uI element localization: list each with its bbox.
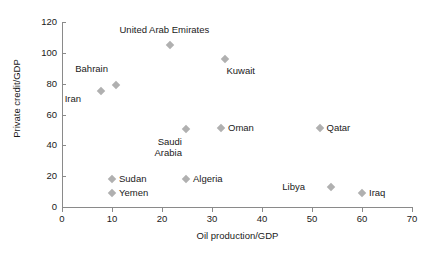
y-tick-label: 80 [33, 79, 57, 89]
data-point-label: United Arab Emirates [120, 24, 166, 35]
data-point-marker[interactable] [165, 41, 173, 49]
y-tick-mark [62, 145, 66, 146]
y-tick-label: 20 [33, 171, 57, 181]
data-point-label: Bahrain [62, 63, 108, 74]
x-tick-label: 20 [150, 214, 174, 224]
data-point-label: Saudi Arabia [136, 136, 182, 158]
data-point-marker[interactable] [108, 189, 116, 197]
x-tick-mark [162, 208, 163, 212]
x-axis-line [62, 207, 413, 208]
x-tick-mark [312, 208, 313, 212]
data-point-marker[interactable] [182, 175, 190, 183]
x-tick-mark [112, 208, 113, 212]
x-tick-mark [412, 208, 413, 212]
data-point-marker[interactable] [97, 87, 105, 95]
data-point-marker[interactable] [220, 55, 228, 63]
data-point-label: Algeria [193, 173, 223, 184]
x-tick-label: 10 [100, 214, 124, 224]
x-tick-mark [62, 208, 63, 212]
y-tick-label: 60 [33, 110, 57, 120]
x-tick-label: 40 [250, 214, 274, 224]
data-point-marker[interactable] [217, 123, 225, 131]
y-tick-mark [62, 115, 66, 116]
y-tick-label: 100 [33, 48, 57, 58]
y-tick-label: 0 [33, 202, 57, 212]
data-point-marker[interactable] [182, 125, 190, 133]
y-tick-mark [62, 53, 66, 54]
x-tick-label: 50 [300, 214, 324, 224]
data-point-label: Libya [259, 181, 305, 192]
data-point-label: Iraq [369, 187, 385, 198]
x-tick-label: 30 [200, 214, 224, 224]
x-axis-title: Oil production/GDP [62, 230, 413, 241]
y-tick-mark [62, 84, 66, 85]
x-tick-label: 60 [350, 214, 374, 224]
data-point-marker[interactable] [327, 183, 335, 191]
data-point-marker[interactable] [358, 189, 366, 197]
x-tick-mark [362, 208, 363, 212]
data-point-marker[interactable] [112, 81, 120, 89]
data-point-label: Oman [228, 122, 254, 133]
data-point-label: Kuwait [227, 65, 256, 76]
data-point-label: Iran [35, 93, 81, 104]
y-axis-title: Private credit/GDP [11, 39, 22, 159]
data-point-marker[interactable] [315, 123, 323, 131]
x-tick-label: 0 [50, 214, 74, 224]
data-point-marker[interactable] [108, 175, 116, 183]
x-tick-label: 70 [400, 214, 424, 224]
x-tick-mark [262, 208, 263, 212]
y-tick-label: 120 [33, 17, 57, 27]
data-point-label: Qatar [327, 122, 351, 133]
data-point-label: Sudan [119, 173, 146, 184]
y-tick-mark [62, 22, 66, 23]
data-point-label: Yemen [119, 187, 148, 198]
y-tick-mark [62, 176, 66, 177]
scatter-chart: 020406080100120010203040506070 IranBahra… [0, 0, 436, 257]
y-tick-label: 40 [33, 140, 57, 150]
x-tick-mark [212, 208, 213, 212]
